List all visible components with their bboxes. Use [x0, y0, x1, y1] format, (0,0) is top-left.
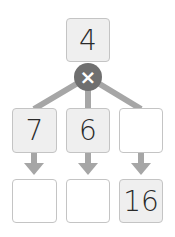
factor-value-1: 7: [26, 114, 44, 147]
product-value: 4: [79, 24, 97, 57]
factor-value-2: 6: [79, 114, 97, 147]
factor-box-2: 6: [66, 108, 110, 153]
multiply-operator-icon: ×: [74, 63, 102, 91]
result-box-2-answer[interactable]: [66, 179, 110, 223]
arrow-stem-left: [31, 152, 37, 164]
arrow-stem-middle: [85, 152, 91, 164]
arrow-down-icon-left: [24, 163, 44, 175]
arrow-down-icon-right: [131, 163, 151, 175]
result-value-3: 16: [123, 185, 159, 218]
arrow-down-icon-middle: [78, 163, 98, 175]
result-box-3: 16: [119, 179, 163, 223]
arrow-stem-right: [138, 152, 144, 164]
factor-box-3-answer[interactable]: [119, 108, 163, 153]
result-box-1-answer[interactable]: [12, 179, 57, 223]
factor-box-1: 7: [12, 108, 57, 153]
product-box: 4: [66, 18, 110, 62]
